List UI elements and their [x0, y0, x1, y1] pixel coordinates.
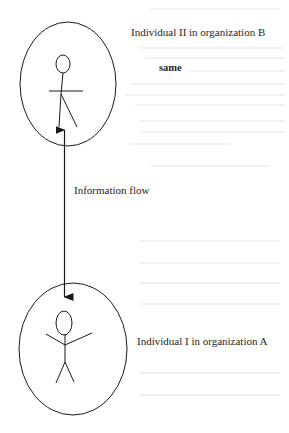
diagram-canvas	[0, 0, 289, 433]
node-label-individual-2: Individual II in organization B	[131, 26, 265, 39]
node-boundary-ellipse	[19, 283, 127, 415]
node-label-individual-1: Individual I in organization A	[137, 335, 268, 348]
node-individual-2	[20, 22, 116, 146]
node-individual-1	[19, 283, 127, 415]
stick-figure-icon	[46, 311, 92, 383]
node-boundary-ellipse	[20, 22, 116, 146]
stick-figure-icon	[49, 55, 83, 127]
edge-label-information-flow: Information flow	[74, 184, 149, 197]
node-annotation-same: same	[159, 61, 182, 74]
